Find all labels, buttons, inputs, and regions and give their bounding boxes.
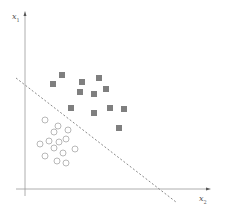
square-point <box>91 91 97 97</box>
circle-point <box>37 141 43 147</box>
circle-point <box>72 146 78 152</box>
axes <box>16 11 211 196</box>
x-axis-arrow-icon <box>206 188 211 191</box>
circle-point <box>42 117 48 123</box>
circle-point <box>60 150 66 156</box>
circle-point <box>63 136 69 142</box>
y-axis-label-sub: 1 <box>17 17 20 23</box>
square-point <box>91 110 97 116</box>
circle-point <box>56 139 62 145</box>
square-points <box>50 72 127 131</box>
circle-point <box>63 160 69 166</box>
circle-point <box>46 138 52 144</box>
square-point <box>79 79 85 85</box>
square-point <box>116 125 122 131</box>
plot-area <box>0 0 226 211</box>
square-point <box>96 75 102 81</box>
x-axis-label: x2 <box>199 194 207 205</box>
circle-point <box>54 158 60 164</box>
circle-point <box>55 123 61 129</box>
x-axis-label-sub: 2 <box>204 199 207 205</box>
square-point <box>121 106 127 112</box>
circle-point <box>42 153 48 159</box>
scatter-figure: x1 x2 <box>0 0 226 211</box>
square-point <box>77 89 83 95</box>
square-point <box>107 105 113 111</box>
circle-point <box>65 127 71 133</box>
y-axis-label: x1 <box>12 12 20 23</box>
circle-point <box>51 129 57 135</box>
circle-point <box>51 145 57 151</box>
square-point <box>50 81 56 87</box>
square-point <box>103 86 109 92</box>
y-axis-arrow-icon <box>24 11 27 16</box>
circle-points <box>37 117 78 166</box>
square-point <box>59 72 65 78</box>
square-point <box>68 105 74 111</box>
